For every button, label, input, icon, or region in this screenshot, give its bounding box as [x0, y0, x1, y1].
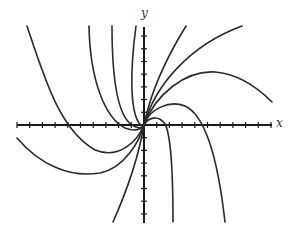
curve-upper-right-hump — [144, 72, 272, 125]
curve-right-hump — [144, 104, 225, 222]
diagram-canvas: x y — [0, 0, 294, 237]
curve-lower-line — [113, 125, 144, 222]
curve-upper-left-3 — [112, 26, 144, 128]
curve-upper-left-4 — [132, 26, 144, 126]
curve-small-right-hump — [144, 118, 173, 222]
solution-curves-plot — [0, 0, 294, 237]
curve-upper-left-far — [27, 26, 144, 153]
curve-lower-left-wide — [17, 125, 144, 174]
y-axis-label: y — [141, 6, 148, 20]
x-axis-label: x — [276, 116, 283, 130]
